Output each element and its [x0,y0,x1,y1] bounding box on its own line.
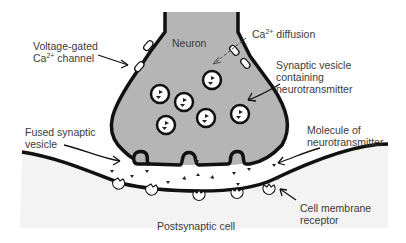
cad-ca: Ca [252,28,265,40]
receptor-label: Cell membrane receptor [300,202,371,226]
sv-line2: containing [276,71,352,83]
rec-line2: receptor [300,214,371,226]
neuron-label-text: Neuron [172,37,206,49]
voltage-gated-line1: Voltage-gated [33,40,98,52]
rec-line1: Cell membrane [300,202,371,214]
ca-diffusion-label: Ca2+ diffusion [252,28,315,40]
postsynaptic-text: Postsynaptic cell [157,220,235,232]
mol-line1: Molecule of [307,124,383,136]
fv-line2: vesicle [25,138,96,150]
molecule-label: Molecule of neurotransmitter [307,124,383,148]
sv-line3: neurotransmitter [276,83,352,95]
cad-suffix: diffusion [273,28,315,40]
fused-vesicle-label: Fused synaptic vesicle [25,126,96,150]
voltage-gated-line2: Ca2+ channel [33,52,98,64]
postsynaptic-cell-label: Postsynaptic cell [157,220,235,232]
vg-ca: Ca [33,52,46,64]
vg-suffix: channel [54,52,94,64]
neuron-label: Neuron [172,37,206,49]
voltage-gated-ca-channel-label: Voltage-gated Ca2+ channel [33,40,98,64]
mol-line2: neurotransmitter [307,136,383,148]
sv-line1: Synaptic vesicle [276,59,352,71]
fv-line1: Fused synaptic [25,126,96,138]
synaptic-vesicle-label: Synaptic vesicle containing neurotransmi… [276,59,352,95]
